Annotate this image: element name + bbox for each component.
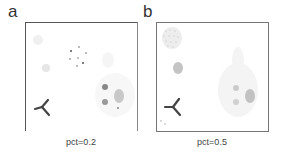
tripod-shape (35, 100, 49, 115)
panel-a-points (33, 35, 135, 117)
panel-b-points (160, 27, 258, 125)
scatter-plots (0, 0, 281, 154)
caption-a: pct=0.2 (41, 137, 121, 147)
tripod-shape (165, 99, 180, 115)
caption-b: pct=0.5 (172, 137, 252, 147)
